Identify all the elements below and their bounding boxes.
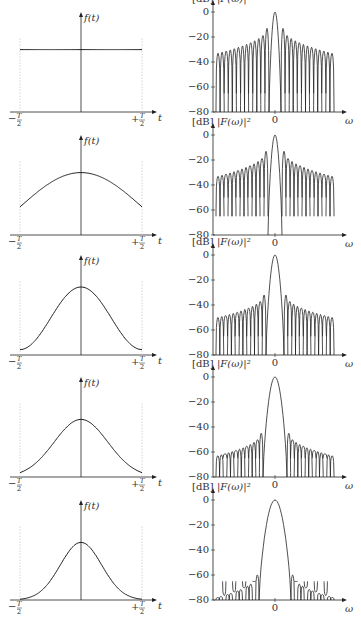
- figure-canvas: f(t)t−T2+T20−20−40−60−800ω[dB]|F(ω)|²f(t…: [0, 0, 361, 628]
- ytick-2: −40: [188, 544, 209, 555]
- omega-zero-tick: 0: [272, 357, 278, 368]
- ytick-2: −40: [188, 56, 209, 67]
- tick-left-den: 2: [17, 363, 21, 371]
- ytick-0: 0: [203, 129, 209, 140]
- arrow-up-icon: [79, 500, 83, 505]
- spectrum-ylabel: |F(ω)|²: [217, 0, 251, 5]
- tick-left-num: T: [17, 235, 23, 243]
- ytick-2: −40: [188, 179, 209, 190]
- ytick-2: −40: [188, 421, 209, 432]
- plus-sign: +: [131, 601, 139, 612]
- ytick-2: −40: [188, 299, 209, 310]
- ytick-0: 0: [203, 249, 209, 260]
- spectrum-curve: [216, 377, 334, 477]
- tick-left-num: T: [17, 600, 23, 608]
- tick-left-den: 2: [17, 120, 21, 128]
- spectrum-plot: [211, 365, 347, 479]
- f-label: f(t): [83, 135, 100, 146]
- tick-left-num: T: [17, 112, 23, 120]
- ytick-3: −60: [188, 324, 209, 335]
- spectrum-curve: [216, 500, 334, 600]
- omega-label: ω: [345, 115, 353, 126]
- row-5: [10, 488, 347, 608]
- ytick-1: −20: [188, 396, 209, 407]
- ytick-0: 0: [203, 371, 209, 382]
- omega-zero-tick: 0: [272, 479, 278, 490]
- tick-right-num: T: [140, 600, 146, 608]
- omega-zero-tick: 0: [272, 602, 278, 613]
- row-2: [10, 123, 347, 243]
- t-label: t: [158, 112, 163, 123]
- spectrum-plot: [211, 488, 347, 602]
- tick-right-den: 2: [140, 608, 144, 616]
- f-label: f(t): [83, 12, 100, 23]
- plus-sign: +: [131, 478, 139, 489]
- arrow-right-icon: [342, 598, 347, 602]
- ytick-0: 0: [203, 6, 209, 17]
- ytick-1: −20: [188, 519, 209, 530]
- time-plot: [10, 135, 157, 243]
- plus-sign: +: [131, 356, 139, 367]
- arrow-right-icon: [152, 233, 157, 237]
- tick-left-den: 2: [17, 243, 21, 251]
- spectrum-ylabel: |F(ω)|²: [217, 236, 251, 248]
- plus-sign: +: [131, 113, 139, 124]
- arrow-up-icon: [79, 135, 83, 140]
- arrow-right-icon: [152, 353, 157, 357]
- time-plot: [10, 500, 157, 608]
- tick-right-num: T: [140, 112, 146, 120]
- arrow-right-icon: [342, 233, 347, 237]
- arrow-right-icon: [152, 110, 157, 114]
- spectrum-ylabel: |F(ω)|²: [217, 481, 251, 493]
- db-unit-label: [dB]: [192, 0, 214, 4]
- db-unit-label: [dB]: [192, 116, 214, 127]
- time-plot: [10, 12, 157, 120]
- tick-right-den: 2: [140, 120, 144, 128]
- ytick-1: −20: [188, 154, 209, 165]
- row-1: [10, 0, 347, 120]
- tick-right-den: 2: [140, 485, 144, 493]
- ytick-3: −60: [188, 204, 209, 215]
- arrow-right-icon: [342, 110, 347, 114]
- f-label: f(t): [83, 500, 100, 511]
- tick-left-den: 2: [17, 608, 21, 616]
- arrow-right-icon: [152, 475, 157, 479]
- arrow-up-icon: [79, 12, 83, 17]
- omega-label: ω: [345, 238, 353, 249]
- tick-right-den: 2: [140, 363, 144, 371]
- ytick-4: −80: [188, 594, 209, 605]
- ytick-3: −60: [188, 446, 209, 457]
- minus-sign: −: [8, 236, 16, 247]
- spectrum-ylabel: |F(ω)|²: [217, 358, 251, 370]
- t-label: t: [158, 600, 163, 611]
- minus-sign: −: [8, 113, 16, 124]
- tick-left-num: T: [17, 355, 23, 363]
- spectrum-plot: [211, 123, 347, 237]
- spectrum-curve: [216, 135, 334, 235]
- db-unit-label: [dB]: [192, 358, 214, 369]
- omega-zero-tick: 0: [272, 114, 278, 125]
- arrow-up-icon: [79, 377, 83, 382]
- row-3: [10, 243, 347, 363]
- ytick-1: −20: [188, 274, 209, 285]
- tick-left-num: T: [17, 477, 23, 485]
- ytick-3: −60: [188, 81, 209, 92]
- arrow-right-icon: [342, 353, 347, 357]
- db-unit-label: [dB]: [192, 481, 214, 492]
- tick-right-num: T: [140, 235, 146, 243]
- time-plot: [10, 377, 157, 485]
- f-label: f(t): [83, 377, 100, 388]
- spectrum-plot: [211, 0, 347, 114]
- tick-right-num: T: [140, 355, 146, 363]
- minus-sign: −: [8, 601, 16, 612]
- omega-label: ω: [345, 358, 353, 369]
- minus-sign: −: [8, 478, 16, 489]
- arrow-right-icon: [342, 475, 347, 479]
- ytick-1: −20: [188, 31, 209, 42]
- time-plot: [10, 255, 157, 363]
- plus-sign: +: [131, 236, 139, 247]
- db-unit-label: [dB]: [192, 236, 214, 247]
- t-label: t: [158, 355, 163, 366]
- t-label: t: [158, 235, 163, 246]
- ytick-3: −60: [188, 569, 209, 580]
